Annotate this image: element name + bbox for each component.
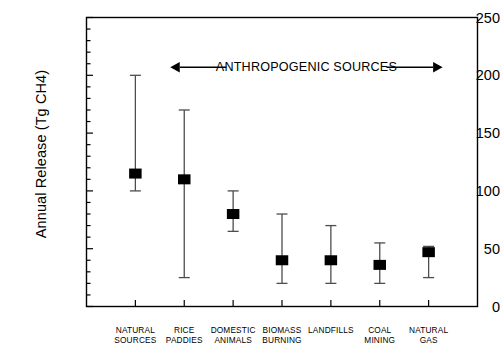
data-point-marker	[422, 247, 435, 257]
data-point-marker	[129, 169, 142, 179]
category-label-line: GAS	[409, 335, 448, 346]
anthropogenic-sources-annotation-label: ANTHROPOGENIC SOURCES	[216, 60, 397, 74]
x-axis-category-label: DOMESTICANIMALS	[211, 325, 256, 346]
x-axis-category-label: LANDFILLS	[308, 325, 354, 336]
category-label-line: COAL	[364, 325, 395, 336]
x-axis-category-label: NATURALSOURCES	[114, 325, 156, 346]
methane-sources-chart: Annual Release (Tg CH4) 050100150200250 …	[0, 0, 500, 362]
category-label-line: BIOMASS	[262, 325, 301, 336]
category-label-line: LANDFILLS	[308, 325, 354, 336]
x-axis-category-label: RICEPADDIES	[166, 325, 203, 346]
data-point-marker	[178, 174, 191, 184]
category-label-line: ANIMALS	[211, 335, 256, 346]
data-point-marker	[227, 209, 240, 219]
data-point-marker	[325, 255, 338, 265]
category-label-line: MINING	[364, 335, 395, 346]
annotation-arrowhead-left	[170, 62, 180, 72]
category-label-line: RICE	[166, 325, 203, 336]
x-axis-category-label: NATURALGAS	[409, 325, 448, 346]
category-label-line: NATURAL	[409, 325, 448, 336]
category-label-line: SOURCES	[114, 335, 156, 346]
data-point-marker	[276, 255, 289, 265]
data-point-marker	[374, 260, 387, 270]
x-axis-category-label: BIOMASSBURNING	[262, 325, 301, 346]
category-label-line: PADDIES	[166, 335, 203, 346]
x-axis-category-label: COALMINING	[364, 325, 395, 346]
category-label-line: NATURAL	[114, 325, 156, 336]
plot-area	[0, 0, 500, 362]
category-label-line: DOMESTIC	[211, 325, 256, 336]
annotation-arrowhead-right	[433, 62, 443, 72]
category-label-line: BURNING	[262, 335, 301, 346]
